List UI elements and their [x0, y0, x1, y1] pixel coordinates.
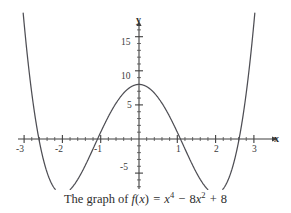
x-tick-label-3: 3 [252, 145, 257, 155]
x-tick-label-minus-3: -3 [16, 145, 24, 155]
y-tick-label-15: 15 [121, 38, 131, 48]
caption-lead: The graph of [64, 192, 129, 206]
function-graph-figure: y x 15 10 5 -5 -3 -2 -1 1 2 3 The graph … [0, 0, 291, 213]
x-tick-label-minus-1: -1 [94, 145, 102, 155]
y-tick-label-5: 5 [127, 101, 132, 111]
caption-term1-exponent: 4 [170, 190, 174, 200]
figure-caption: The graph of f(x) = x4 − 8x2 + 8 [0, 191, 291, 209]
x-tick-label-2: 2 [214, 145, 219, 155]
axes-group [18, 21, 278, 189]
function-curve [223, 13, 255, 189]
y-tick-label-10: 10 [121, 72, 131, 82]
y-tick-label-minus-5: -5 [120, 163, 128, 173]
plot-area: y x 15 10 5 -5 -3 -2 -1 1 2 3 [0, 0, 291, 191]
y-axis-label: y [136, 15, 141, 25]
x-axis-label: x [274, 134, 279, 144]
caption-minus: − [177, 192, 186, 206]
x-tick-label-minus-2: -2 [55, 145, 63, 155]
caption-plus: + [209, 192, 218, 206]
x-tick-label-1: 1 [176, 145, 181, 155]
caption-term2-exponent: 2 [201, 190, 205, 200]
caption-equals: = [152, 192, 161, 206]
caption-term3: 8 [221, 192, 227, 206]
caption-fn-close: ) [145, 192, 149, 206]
function-curve [23, 13, 55, 189]
plot-svg [0, 0, 291, 191]
